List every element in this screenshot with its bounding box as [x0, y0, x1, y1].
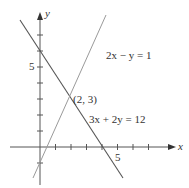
x-axis-arrow-icon [168, 144, 176, 150]
x-axis-label: x [178, 141, 183, 152]
x-axis [10, 144, 176, 150]
graph-figure: y x 5 5 2x − y = 1 3x + 2y = 12 (2, 3) [0, 0, 189, 188]
intersection-label: (2, 3) [73, 94, 97, 105]
line-3x-plus-2y-eq-12 [20, 20, 123, 178]
equation-label-3x-plus-2y: 3x + 2y = 12 [89, 114, 145, 125]
y-axis-arrow-icon [37, 12, 43, 20]
x-tick-label-5: 5 [115, 152, 121, 163]
equation-label-2x-minus-y: 2x − y = 1 [106, 50, 151, 61]
y-axis-label: y [45, 8, 50, 19]
y-tick-label-5: 5 [29, 61, 35, 72]
y-axis [37, 12, 43, 185]
